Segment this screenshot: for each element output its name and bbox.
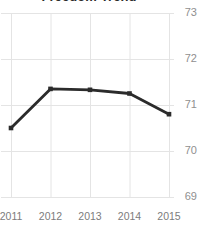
data-point-marker [48, 87, 53, 92]
data-point-marker [167, 112, 172, 117]
y-axis-tick-label: 72 [173, 53, 197, 64]
y-axis-tick-label: 69 [173, 191, 197, 202]
x-axis-tick-label: 2014 [113, 210, 147, 222]
horizontal-gridlines [1, 14, 174, 198]
x-axis-tick-label: 2012 [34, 210, 68, 222]
x-axis-tick-label: 2011 [0, 210, 28, 222]
plot-area: 7372717069 20112012201320142015 [0, 0, 199, 226]
data-point-marker [127, 91, 132, 96]
line-chart-svg [0, 0, 199, 226]
data-point-marker [9, 126, 14, 131]
chart-screenshot: Freedom Trend 7372717069 201120122013201… [0, 0, 199, 226]
x-axis-tick-label: 2015 [152, 210, 186, 222]
y-axis-tick-label: 70 [173, 145, 197, 156]
data-point-marker [88, 88, 93, 93]
y-axis-tick-label: 73 [173, 7, 197, 18]
x-axis-tick-label: 2013 [73, 210, 107, 222]
y-axis-tick-label: 71 [173, 99, 197, 110]
